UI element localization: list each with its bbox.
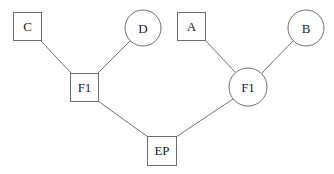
edge-b-f1-right xyxy=(262,41,293,73)
node-d-label: D xyxy=(138,21,147,36)
node-b: B xyxy=(288,10,324,46)
edge-c-f1-left xyxy=(41,41,71,73)
node-d: D xyxy=(125,10,161,46)
edge-f1-left-ep xyxy=(98,101,148,137)
node-a-label: A xyxy=(187,19,197,34)
node-f1-right-label: F1 xyxy=(241,80,255,95)
node-ep: EP xyxy=(148,137,177,166)
node-c: C xyxy=(14,13,42,41)
node-f1-left: F1 xyxy=(71,74,99,102)
edge-d-f1-left xyxy=(98,41,130,73)
tree-diagram: C D F1 A B F1 EP xyxy=(0,0,334,174)
node-c-label: C xyxy=(23,19,32,34)
edge-f1-right-ep xyxy=(176,99,233,137)
node-f1-left-label: F1 xyxy=(78,80,92,95)
node-f1-right: F1 xyxy=(229,68,267,106)
edge-a-f1-right xyxy=(206,41,235,72)
node-a: A xyxy=(178,13,206,41)
node-ep-label: EP xyxy=(154,143,169,158)
node-b-label: B xyxy=(302,21,311,36)
